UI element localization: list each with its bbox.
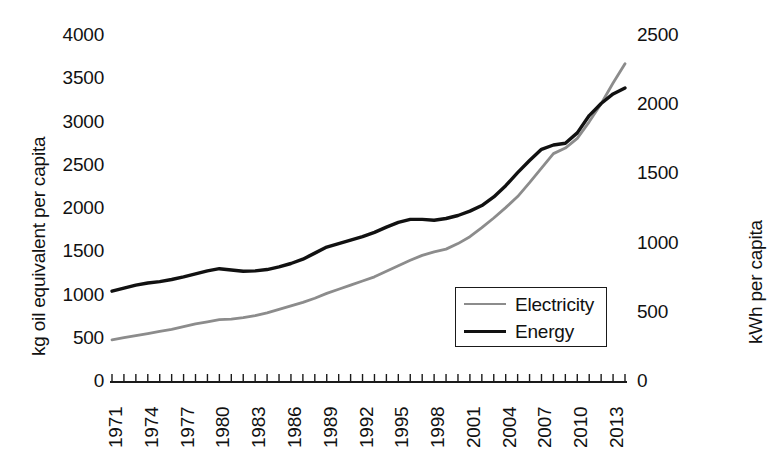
legend-swatch-electricity <box>464 303 506 305</box>
legend: Electricity Energy <box>455 287 607 347</box>
axis-line-group <box>110 374 627 382</box>
legend-item-energy[interactable]: Energy <box>464 317 574 345</box>
series-line-energy <box>112 88 625 291</box>
x-axis-tick-marks <box>112 374 625 382</box>
legend-item-electricity[interactable]: Electricity <box>464 290 594 318</box>
legend-label-energy: Energy <box>515 322 574 341</box>
legend-label-electricity: Electricity <box>515 295 594 314</box>
legend-swatch-energy <box>464 330 506 333</box>
